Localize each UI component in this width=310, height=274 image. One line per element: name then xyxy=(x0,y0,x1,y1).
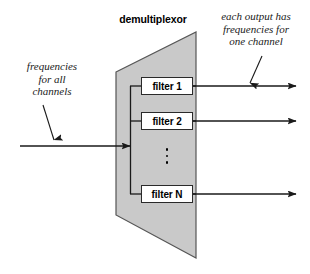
demultiplexor-body xyxy=(116,32,196,258)
left-note-pointer xyxy=(43,105,54,140)
demultiplexor-diagram xyxy=(0,0,310,274)
diagram-canvas: demultiplexor frequencies for all channe… xyxy=(0,0,310,274)
right-note-pointer xyxy=(250,56,262,83)
